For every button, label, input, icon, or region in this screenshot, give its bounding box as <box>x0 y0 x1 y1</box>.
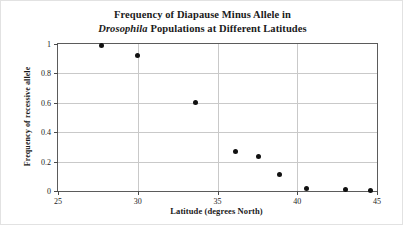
gridline-vertical <box>297 44 298 191</box>
y-tick-mark <box>54 132 58 133</box>
data-point <box>135 53 140 58</box>
y-tick-mark <box>54 162 58 163</box>
y-tick-mark <box>54 73 58 74</box>
chart-title-line-2: Drosophila Populations at Different Lati… <box>1 22 403 36</box>
y-tick-mark <box>54 44 58 45</box>
y-tick-label: 0.6 <box>41 98 51 107</box>
x-tick-label: 40 <box>293 197 301 206</box>
y-tick-label: 0 <box>47 187 51 196</box>
gridline-vertical <box>138 44 139 191</box>
y-tick-mark <box>54 103 58 104</box>
data-point <box>99 43 104 48</box>
y-tick-label: 0.8 <box>41 69 51 78</box>
chart-title-line-1: Frequency of Diapause Minus Allele in <box>1 8 403 22</box>
chart-title-line-2-rest: Populations at Different Latitudes <box>148 23 307 34</box>
species-name-italic: Drosophila <box>98 23 147 34</box>
y-tick-label: 0.2 <box>41 157 51 166</box>
gridline-vertical <box>218 44 219 191</box>
x-tick-label: 45 <box>373 197 381 206</box>
chart-title: Frequency of Diapause Minus Allele in Dr… <box>1 8 403 35</box>
x-tick-mark <box>58 191 59 195</box>
data-point <box>233 149 238 154</box>
plot-area: 00.20.40.60.81 2530354045 <box>57 43 378 192</box>
data-point <box>277 172 282 177</box>
data-point <box>343 187 348 192</box>
x-tick-mark <box>297 191 298 195</box>
data-point <box>304 186 309 191</box>
x-tick-label: 30 <box>134 197 142 206</box>
x-tick-mark <box>218 191 219 195</box>
y-axis-label-text: Frequency of recessive allele <box>23 67 32 167</box>
x-tick-label: 35 <box>214 197 222 206</box>
x-axis-label: Latitude (degrees North) <box>57 206 376 216</box>
y-tick-label: 1 <box>47 40 51 49</box>
chart-figure: Frequency of Diapause Minus Allele in Dr… <box>0 0 403 225</box>
x-tick-mark <box>377 191 378 195</box>
data-point <box>193 100 198 105</box>
x-tick-label: 25 <box>54 197 62 206</box>
data-point <box>256 154 261 159</box>
y-axis-label: Frequency of recessive allele <box>21 43 34 190</box>
y-tick-label: 0.4 <box>41 128 51 137</box>
data-point <box>368 188 373 193</box>
x-tick-mark <box>138 191 139 195</box>
